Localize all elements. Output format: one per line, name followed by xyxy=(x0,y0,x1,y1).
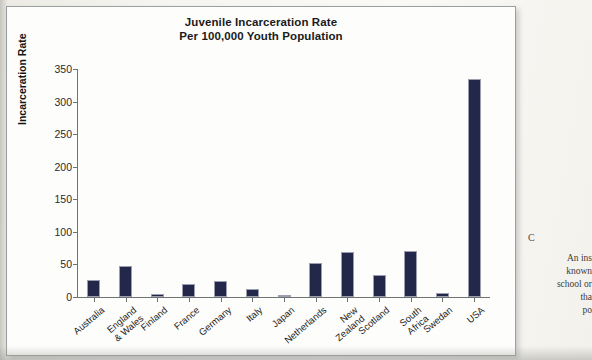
x-tick-label-line: Swedan xyxy=(422,305,455,335)
bar-slot xyxy=(303,69,329,297)
chart-figure-frame: Juvenile Incarceration Rate Per 100,000 … xyxy=(6,6,516,356)
y-tick-mark xyxy=(73,69,78,70)
x-tick-mark xyxy=(379,297,380,302)
bar xyxy=(373,275,386,297)
x-tick-mark xyxy=(221,297,222,302)
margin-mark: C xyxy=(528,232,535,243)
x-tick-mark xyxy=(189,297,190,302)
chart-title: Juvenile Incarceration Rate Per 100,000 … xyxy=(7,15,515,43)
x-tick-mark xyxy=(474,297,475,302)
bar-slot xyxy=(176,69,202,297)
margin-body-text: An insknownschool orthapo xyxy=(520,252,592,360)
bar-slot xyxy=(239,69,265,297)
y-tick-mark xyxy=(73,199,78,200)
bar-slot xyxy=(271,69,297,297)
x-tick-label-line: Italy xyxy=(245,305,265,324)
bar xyxy=(309,263,322,297)
bar xyxy=(404,251,417,297)
bar xyxy=(246,289,259,297)
y-tick-mark xyxy=(73,297,78,298)
x-tick-label-line: USA xyxy=(465,305,487,326)
margin-text-line: tha xyxy=(520,291,592,304)
y-tick-mark xyxy=(73,264,78,265)
x-tick-mark xyxy=(252,297,253,302)
x-tick-label-line: Japan xyxy=(270,305,297,330)
x-tick-mark xyxy=(442,297,443,302)
bar xyxy=(468,79,481,297)
margin-text-line: An ins xyxy=(520,252,592,265)
bar-slot xyxy=(81,69,107,297)
bar-slot xyxy=(366,69,392,297)
bar-slot xyxy=(398,69,424,297)
x-tick-mark xyxy=(411,297,412,302)
x-tick-label: Finland xyxy=(139,305,170,333)
y-tick-mark xyxy=(73,134,78,135)
x-tick-label-line: Finland xyxy=(139,305,170,333)
x-tick-label: USA xyxy=(465,305,487,326)
bar-slot xyxy=(113,69,139,297)
bar-slot xyxy=(429,69,455,297)
x-tick-mark xyxy=(157,297,158,302)
x-tick-label: Japan xyxy=(270,305,297,330)
x-tick-mark xyxy=(284,297,285,302)
margin-text-line: known xyxy=(520,265,592,278)
x-tick-label: Germany xyxy=(197,305,234,338)
bar-slot xyxy=(461,69,487,297)
margin-text-line: po xyxy=(520,304,592,317)
y-tick-mark xyxy=(73,232,78,233)
x-tick-label: Swedan xyxy=(422,305,455,335)
bar xyxy=(87,280,100,297)
plot-area: 050100150200250300350 AustraliaEngland& … xyxy=(77,69,490,298)
bar-slot xyxy=(334,69,360,297)
chart-title-line1: Juvenile Incarceration Rate xyxy=(7,15,515,29)
bar xyxy=(214,281,227,297)
x-tick-mark xyxy=(94,297,95,302)
x-tick-mark xyxy=(347,297,348,302)
y-tick-mark xyxy=(73,102,78,103)
bar-slot xyxy=(144,69,170,297)
x-tick-label-line: Germany xyxy=(197,305,234,338)
x-tick-mark xyxy=(126,297,127,302)
x-tick-mark xyxy=(316,297,317,302)
x-tick-label: Australia xyxy=(72,305,107,337)
x-tick-label: Italy xyxy=(245,305,265,324)
scanned-page: Juvenile Incarceration Rate Per 100,000 … xyxy=(0,0,592,360)
bar xyxy=(119,266,132,297)
x-tick-label-line: Australia xyxy=(72,305,107,337)
bar xyxy=(182,284,195,297)
y-tick-mark xyxy=(73,167,78,168)
margin-text-line: school or xyxy=(520,278,592,291)
bar xyxy=(341,252,354,297)
y-axis-label: Incarceration Rate xyxy=(16,33,28,125)
bar-slot xyxy=(208,69,234,297)
chart-title-line2: Per 100,000 Youth Population xyxy=(7,29,515,43)
